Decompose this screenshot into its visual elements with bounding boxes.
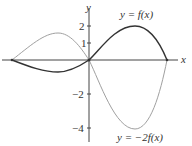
origin-point [88,59,91,62]
y-tick-label-1: 1 [81,37,87,49]
y-axis-label: y [85,1,91,13]
right-endpoint [166,59,169,62]
function-graph: 2 1 −2 −4 y x y = f(x) y = −2f(x) [0,0,192,146]
x-axis-label: x [180,53,186,65]
y-tick-label-2: 2 [79,20,85,32]
curve-f-label: y = f(x) [119,8,153,21]
curve-neg2f-label: y = −2f(x) [116,131,163,144]
left-endpoint [11,59,14,62]
y-tick-label-neg2: −2 [72,88,84,100]
y-tick-label-neg4: −4 [72,122,84,134]
